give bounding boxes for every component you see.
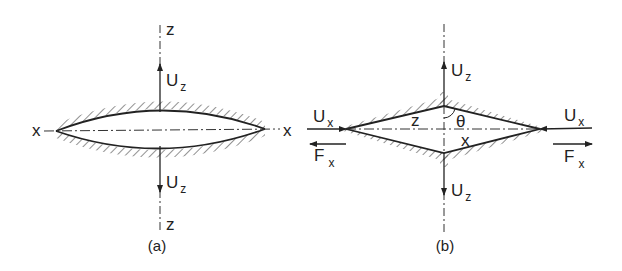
x-label-left-a: x xyxy=(32,121,41,140)
uz-label-bottom-b: Uz xyxy=(451,181,471,204)
caption-b: (b) xyxy=(436,237,454,254)
diagram-canvas: z z x x Uz Uz (a) Ux Fx Ux xyxy=(0,0,622,271)
fx-label-left: Fx xyxy=(314,146,334,170)
panel-a: z z x x Uz Uz (a) xyxy=(32,20,292,254)
x-axis-a xyxy=(44,129,280,131)
theta-arc xyxy=(444,109,455,118)
panel-b: Ux Fx Ux Fx Uz Uz z θ x (b) xyxy=(307,24,592,254)
caption-a: (a) xyxy=(148,237,166,254)
z-label-b: z xyxy=(411,111,420,130)
z-label-top-a: z xyxy=(166,20,175,39)
x-label-b: x xyxy=(461,131,470,150)
theta-label: θ xyxy=(456,112,465,131)
uz-label-top-a: Uz xyxy=(166,71,186,94)
ux-label-left: Ux xyxy=(313,107,333,130)
figure-svg: z z x x Uz Uz (a) Ux Fx Ux xyxy=(0,0,622,271)
uz-label-bottom-a: Uz xyxy=(166,173,186,196)
z-label-bottom-a: z xyxy=(166,215,175,234)
ux-label-right: Ux xyxy=(564,106,584,129)
fx-label-right: Fx xyxy=(564,147,584,171)
uz-label-top-b: Uz xyxy=(451,61,471,84)
x-label-right-a: x xyxy=(283,121,292,140)
